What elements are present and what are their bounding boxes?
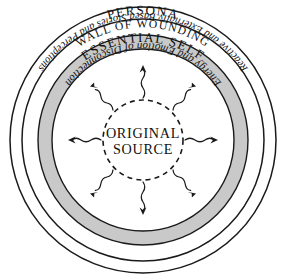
- wavy-arrow-w: [68, 137, 101, 144]
- label-original-source: ORIGINAL SOURCE: [106, 125, 180, 157]
- wavy-arrow-n: [140, 65, 147, 98]
- wavy-arrow-sw: [90, 170, 113, 198]
- label-original-source-line2: SOURCE: [113, 141, 173, 157]
- diagram-root: PERSONA WALL OF WOUNDING ESSENTIAL SELF …: [0, 0, 288, 280]
- wavy-arrow-nw: [90, 82, 113, 110]
- wavy-arrow-s: [140, 182, 147, 215]
- label-original-source-line1: ORIGINAL: [106, 125, 180, 141]
- wavy-arrow-ne: [173, 82, 196, 110]
- wavy-arrow-e: [185, 137, 218, 144]
- wavy-arrow-se: [173, 170, 196, 198]
- concentric-circle-diagram: PERSONA WALL OF WOUNDING ESSENTIAL SELF …: [0, 0, 288, 280]
